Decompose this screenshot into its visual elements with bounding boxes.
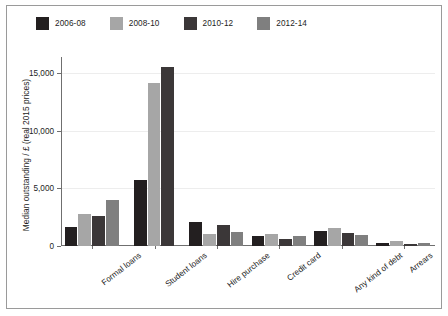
- bar[interactable]: [376, 243, 389, 246]
- bar[interactable]: [148, 83, 161, 246]
- legend-item-2010-12[interactable]: 2010-12: [184, 17, 234, 30]
- x-axis-label: Hire purchase: [226, 251, 272, 289]
- x-tick-mark: [217, 246, 218, 249]
- legend-item-2008-10[interactable]: 2008-10: [110, 17, 160, 30]
- bar-series-container: [61, 59, 435, 246]
- bar[interactable]: [252, 236, 265, 246]
- x-axis-label: Credit card: [286, 251, 323, 283]
- legend-label: 2010-12: [203, 19, 234, 28]
- bar[interactable]: [106, 200, 119, 246]
- y-tick-label: 0: [49, 242, 54, 251]
- bar-group-arrears: [376, 59, 431, 246]
- x-tick-mark: [155, 246, 156, 249]
- legend-item-2012-14[interactable]: 2012-14: [257, 17, 307, 30]
- bar[interactable]: [279, 239, 292, 246]
- legend-swatch-icon: [36, 17, 49, 30]
- bar[interactable]: [189, 222, 202, 246]
- bar[interactable]: [328, 228, 341, 246]
- bar[interactable]: [78, 214, 91, 246]
- y-axis-title: Median outstanding / £ (real 2015 prices…: [21, 55, 31, 255]
- bar-group-hire-purchase: [189, 59, 244, 246]
- x-tick-mark: [92, 246, 93, 249]
- y-tick-mark: [57, 246, 61, 247]
- y-tick-label: 5,000: [34, 184, 55, 193]
- chart-figure: 2006-082008-102010-122012-14 Median outs…: [0, 0, 448, 316]
- x-axis-label: Student loans: [163, 251, 208, 289]
- y-tick-label: 15,000: [29, 68, 54, 77]
- bar[interactable]: [265, 234, 278, 246]
- chart-legend: 2006-082008-102010-122012-14: [36, 17, 331, 30]
- x-axis-label: Arrears: [408, 251, 435, 275]
- bar[interactable]: [404, 244, 417, 246]
- x-axis-label: Any kind of debt: [352, 251, 404, 294]
- bar[interactable]: [65, 227, 78, 246]
- bar[interactable]: [293, 236, 306, 246]
- bar[interactable]: [390, 241, 403, 246]
- bar-group-formal-loans: [65, 59, 120, 246]
- bar[interactable]: [217, 225, 230, 246]
- bar[interactable]: [92, 216, 105, 246]
- bar[interactable]: [161, 67, 174, 246]
- legend-label: 2006-08: [55, 19, 86, 28]
- bar[interactable]: [314, 231, 327, 246]
- legend-label: 2008-10: [129, 19, 160, 28]
- y-tick-label: 10,000: [29, 126, 54, 135]
- bar[interactable]: [418, 243, 431, 246]
- bar[interactable]: [342, 233, 355, 246]
- x-tick-mark: [404, 246, 405, 249]
- bar-group-credit-card: [252, 59, 307, 246]
- bar[interactable]: [203, 234, 216, 246]
- plot-area: 05,00010,00015,000 Formal loansStudent l…: [61, 59, 435, 246]
- bar-group-student-loans: [134, 59, 175, 246]
- legend-item-2006-08[interactable]: 2006-08: [36, 17, 86, 30]
- legend-swatch-icon: [110, 17, 123, 30]
- x-axis-label: Formal loans: [100, 251, 143, 287]
- bar[interactable]: [355, 235, 368, 246]
- legend-swatch-icon: [257, 17, 270, 30]
- legend-swatch-icon: [184, 17, 197, 30]
- bar[interactable]: [134, 180, 147, 246]
- bar[interactable]: [231, 232, 244, 246]
- x-tick-mark: [342, 246, 343, 249]
- bar-group-any-kind-of-debt: [314, 59, 369, 246]
- legend-label: 2012-14: [276, 19, 307, 28]
- x-tick-mark: [279, 246, 280, 249]
